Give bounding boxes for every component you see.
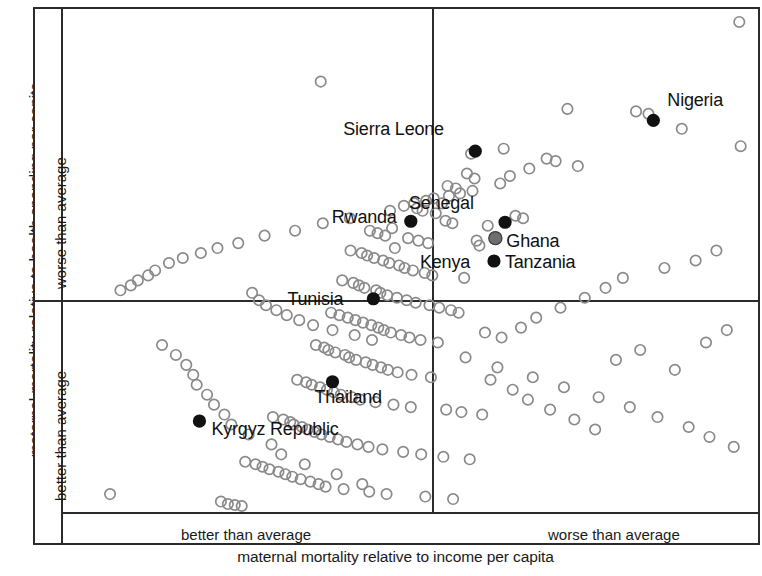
x-band-label-right: worse than average (548, 527, 680, 542)
data-point-open (442, 181, 452, 191)
data-point-open (340, 350, 350, 360)
data-point-open (465, 454, 475, 464)
data-point-open (670, 365, 680, 375)
data-point-open (388, 399, 398, 409)
point-label: Kenya (420, 253, 470, 271)
y-band-label-lower: better than average (53, 371, 68, 501)
data-point-open (334, 310, 344, 320)
data-point-open (126, 280, 136, 290)
data-point-open (237, 501, 247, 511)
data-point-open (287, 471, 297, 481)
data-point-open (343, 312, 353, 322)
data-point-open (337, 275, 347, 285)
data-point-open (348, 278, 358, 288)
point-label: Nigeria (667, 91, 723, 109)
data-point-open (367, 360, 377, 370)
data-point-open (362, 250, 372, 260)
data-point-open (354, 280, 364, 290)
data-point-open (635, 345, 645, 355)
data-point-open (384, 258, 394, 268)
point-label: Senegal (409, 194, 474, 212)
data-point-open (498, 143, 508, 153)
data-point-open (367, 335, 377, 345)
data-point-open (541, 153, 551, 163)
data-point-open (266, 439, 276, 449)
data-point-open (466, 148, 476, 158)
data-point-open (361, 357, 371, 367)
data-point-highlighted (498, 216, 511, 229)
data-point-open (357, 479, 367, 489)
data-point-open (471, 235, 481, 245)
data-point-open (735, 141, 745, 151)
data-point-open (441, 404, 451, 414)
data-point-open (562, 104, 572, 114)
data-point-open (292, 375, 302, 385)
data-point-highlighted (367, 292, 380, 305)
data-point-highlighted (469, 145, 482, 158)
data-point-open (350, 315, 360, 325)
data-point-highlighted (193, 414, 206, 427)
point-label: Kyrgyz Republic (211, 420, 338, 438)
data-point-open (290, 225, 300, 235)
data-point-open (369, 253, 379, 263)
data-point-open (383, 365, 393, 375)
data-point-open (495, 178, 505, 188)
data-point-open (105, 489, 115, 499)
data-point-open (734, 17, 744, 27)
point-label: Rwanda (332, 208, 397, 226)
data-point-highlighted (404, 215, 417, 228)
data-point-open (259, 230, 269, 240)
x-axis-title: maternal mortality relative to income pe… (33, 549, 758, 565)
data-point-open (545, 404, 555, 414)
data-point-open (230, 500, 240, 510)
data-point-open (273, 467, 283, 477)
data-point-open (453, 307, 463, 317)
data-point-open (722, 325, 732, 335)
data-point-open (115, 285, 125, 295)
data-point-open (711, 245, 721, 255)
data-point-open (507, 385, 517, 395)
data-point-open (373, 322, 383, 332)
data-point-open (191, 380, 201, 390)
data-point-open (618, 273, 628, 283)
data-point-open (358, 317, 368, 327)
data-point-open (240, 457, 250, 467)
data-point-open (434, 303, 444, 313)
data-point-open (327, 325, 337, 335)
data-point-open (684, 422, 694, 432)
data-point-open (356, 248, 366, 258)
data-point-open (690, 255, 700, 265)
data-point-open (440, 216, 450, 226)
data-point-open (406, 370, 416, 380)
data-point-open (652, 412, 662, 422)
x-band-divider (61, 512, 760, 514)
data-point-open (381, 489, 391, 499)
data-point-open (365, 225, 375, 235)
data-point-open (600, 283, 610, 293)
data-point-open (300, 459, 310, 469)
data-point-open (492, 362, 502, 372)
data-point-open (359, 283, 369, 293)
data-point-open (371, 285, 381, 295)
data-point-open (301, 377, 311, 387)
data-point-open (485, 375, 495, 385)
data-point-open (264, 464, 274, 474)
data-point-open (150, 265, 160, 275)
data-point-open (496, 332, 506, 342)
data-point-open (295, 474, 305, 484)
data-point-open (516, 322, 526, 332)
data-point-open (280, 469, 290, 479)
data-point-open (404, 332, 414, 342)
data-point-open (510, 211, 520, 221)
data-point-open (590, 424, 600, 434)
data-point-open (341, 437, 351, 447)
data-point-open (338, 484, 348, 494)
data-point-open (319, 342, 329, 352)
data-point-open (311, 340, 321, 350)
data-point-open (480, 327, 490, 337)
data-point-open (573, 161, 583, 171)
x-band-label-left: better than average (181, 527, 311, 542)
data-point-open (524, 163, 534, 173)
data-point-open (433, 337, 443, 347)
